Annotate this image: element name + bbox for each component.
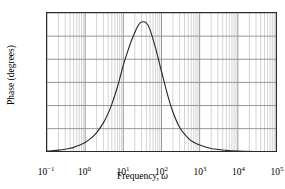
x-axis-label: Frequency, ω	[0, 171, 285, 181]
bode-phase-chart: Phase (degrees) −120−130−140−150−160−170…	[0, 0, 285, 189]
plot-frame	[46, 12, 277, 152]
phase-curve	[47, 13, 276, 152]
y-axis-label: Phase (degrees)	[6, 5, 20, 145]
plot-area: −120−130−140−150−160−170−180 10−11001011…	[46, 12, 277, 152]
curve-path	[47, 22, 276, 152]
